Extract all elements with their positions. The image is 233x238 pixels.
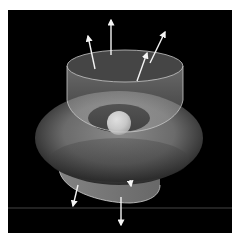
arrow-down-3 bbox=[130, 180, 131, 186]
scene-svg bbox=[8, 10, 232, 233]
figure-frame bbox=[8, 10, 232, 233]
gaussian-cylinder bbox=[67, 50, 183, 132]
